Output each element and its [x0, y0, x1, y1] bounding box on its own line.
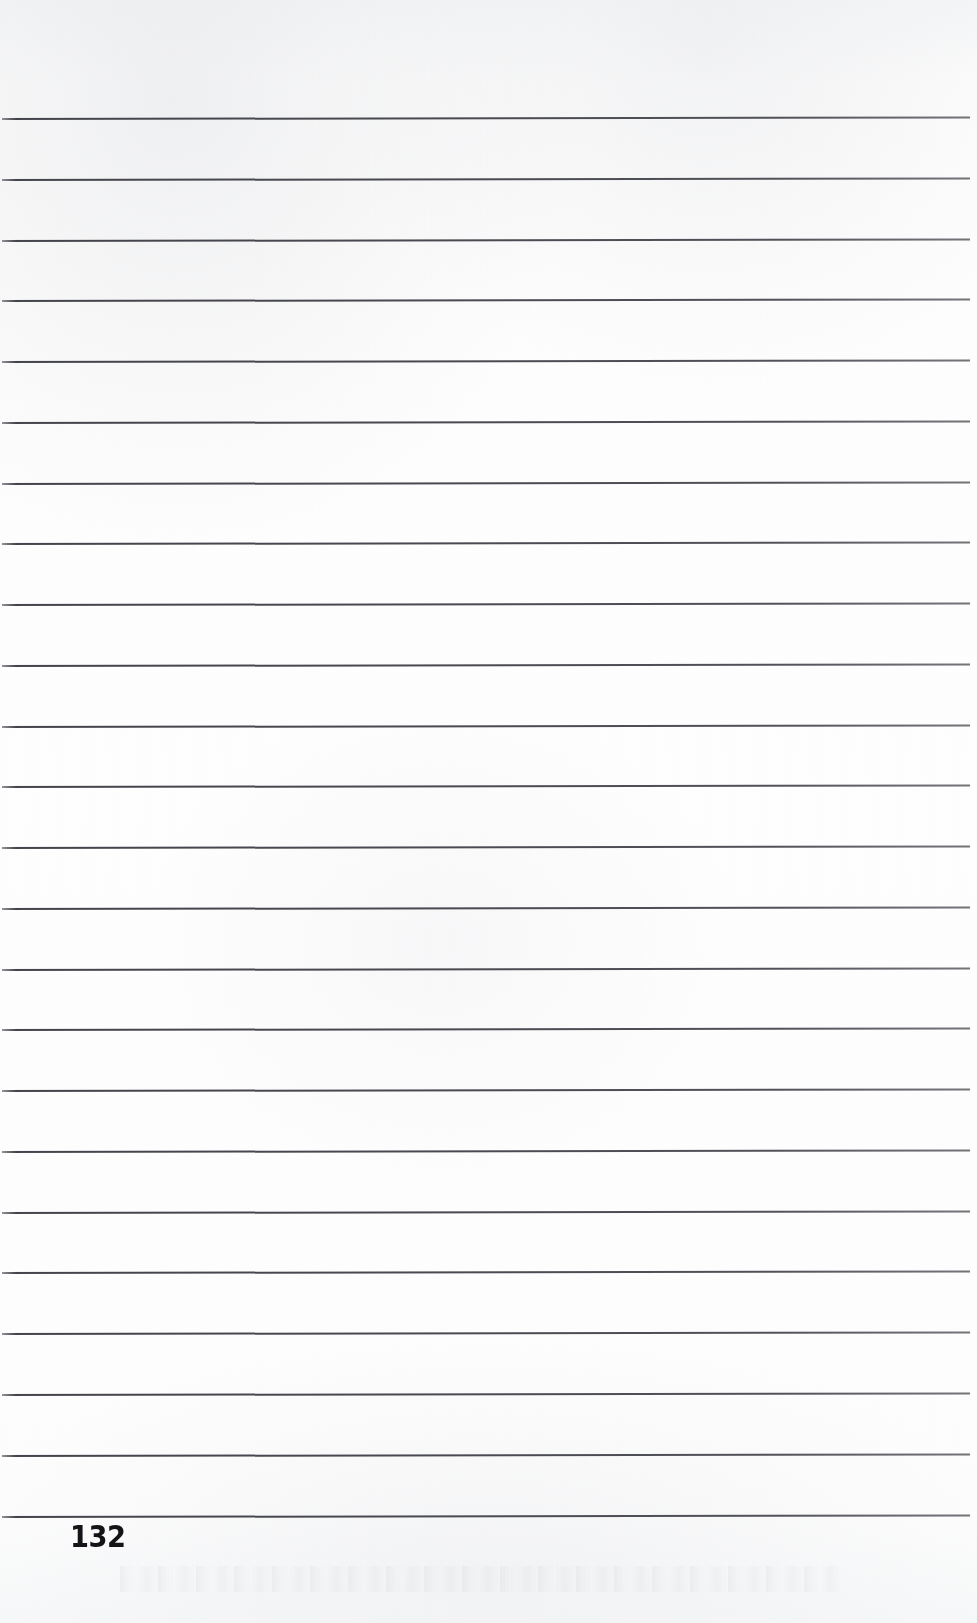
rule-21 [2, 1332, 970, 1335]
page-number: 132 [70, 1521, 126, 1552]
rule-23 [2, 1454, 970, 1457]
ruled-lines-group [0, 0, 977, 1623]
notebook-page: 132 [0, 0, 977, 1623]
rule-3 [2, 239, 970, 242]
rule-16 [2, 1028, 970, 1031]
rule-8 [2, 542, 970, 545]
rule-14 [2, 907, 970, 910]
rule-6 [2, 421, 970, 424]
rule-19 [2, 1211, 970, 1214]
rule-11 [2, 725, 970, 728]
rule-20 [2, 1271, 970, 1274]
rule-1 [2, 117, 970, 120]
rule-5 [2, 360, 970, 363]
rule-9 [2, 603, 970, 606]
rule-4 [2, 299, 970, 302]
rule-15 [2, 968, 970, 971]
rule-2 [2, 178, 970, 181]
rule-7 [2, 482, 970, 485]
rule-12 [2, 785, 970, 788]
rule-10 [2, 664, 970, 667]
rule-24 [2, 1515, 970, 1518]
rule-22 [2, 1393, 970, 1396]
rule-13 [2, 846, 970, 849]
rule-17 [2, 1089, 970, 1092]
rule-18 [2, 1150, 970, 1153]
